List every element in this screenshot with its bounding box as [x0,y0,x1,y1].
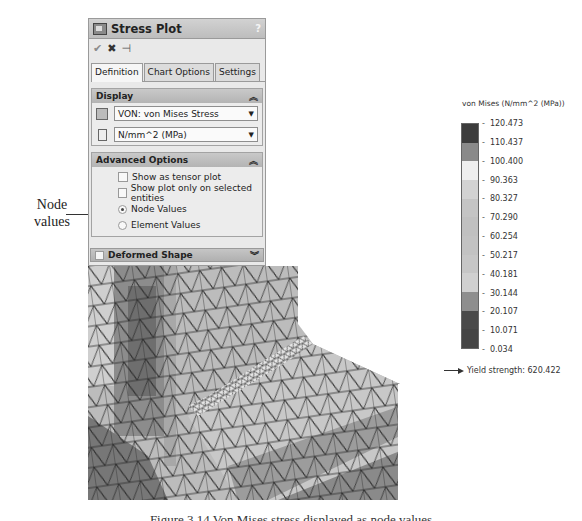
stress-component-icon [96,108,108,120]
color-band [462,255,478,274]
tick-label: 20.107 [482,307,518,316]
stress-plot-panel: Stress Plot ? ✔ ✖ ⊣ Definition Chart Opt… [88,18,266,266]
collapse-chevron-icon[interactable]: ︽ [249,154,258,167]
tick-label: 0.034 [482,345,513,354]
panel-titlebar: Stress Plot ? [89,19,265,39]
units-value: N/mm^2 (MPa) [118,130,187,140]
color-band [462,236,478,255]
node-values-annotation: Node values [22,196,82,230]
color-band [462,161,478,180]
arrow-head-icon [458,368,464,374]
advanced-options-header[interactable]: Advanced Options ︽ [92,153,262,167]
component-row: VON: von Mises Stress ▼ [92,103,262,124]
color-band [462,124,478,143]
color-band [462,273,478,292]
yield-strength-indicator: Yield strength: 620.422 [444,366,561,375]
advanced-options-label: Advanced Options [96,155,188,165]
color-band [462,329,478,348]
tick-label: 10.071 [482,326,518,335]
element-values-radio[interactable] [118,221,127,230]
yield-strength-label: Yield strength: 620.422 [467,366,561,375]
tab-settings[interactable]: Settings [215,63,260,81]
advanced-options-group: Advanced Options ︽ Show as tensor plot S… [91,152,263,237]
action-bar: ✔ ✖ ⊣ [89,39,265,59]
color-band [462,143,478,162]
cancel-x-icon[interactable]: ✖ [107,42,116,56]
show-tensor-label: Show as tensor plot [132,172,221,182]
expand-chevron-icon[interactable]: ︾ [250,249,259,262]
node-values-radio[interactable] [118,205,127,214]
collapse-chevron-icon[interactable]: ︽ [249,90,258,103]
legend-title: von Mises (N/mm^2 (MPa)) [462,99,565,108]
deformed-shape-checkbox[interactable] [95,251,104,260]
fea-mesh-stress-plot[interactable] [88,266,400,500]
tick-label: 60.254 [482,232,518,241]
tab-chart-options[interactable]: Chart Options [144,63,214,81]
dropdown-arrow-icon: ▼ [249,110,254,118]
show-tensor-checkbox[interactable] [118,172,128,182]
ok-check-icon[interactable]: ✔ [93,42,102,56]
element-values-radio-row[interactable]: Element Values [92,217,262,233]
tick-label: 100.400 [482,157,523,166]
annotation-leader-line [66,214,88,215]
tick-label: 30.144 [482,289,518,298]
tick-label: 120.473 [482,119,523,128]
color-band [462,180,478,199]
color-band [462,311,478,330]
deformed-shape-label: Deformed Shape [108,250,250,260]
tab-definition[interactable]: Definition [91,63,143,82]
stress-plot-icon [93,23,107,35]
stress-component-value: VON: von Mises Stress [118,109,219,119]
display-header-label: Display [96,91,133,101]
figure-caption: Figure 3.14 Von Mises stress displayed a… [0,512,582,521]
show-selected-checkbox-row[interactable]: Show plot only on selected entities [92,185,262,201]
show-selected-checkbox[interactable] [118,188,127,198]
dropdown-arrow-icon: ▼ [249,131,254,139]
units-icon [98,129,107,141]
deformed-shape-group-header[interactable]: Deformed Shape ︾ [90,248,264,262]
color-band [462,199,478,218]
help-icon[interactable]: ? [255,23,261,34]
panel-tabs: Definition Chart Options Settings [91,63,265,82]
tick-label: 40.181 [482,270,518,279]
pushpin-icon[interactable]: ⊣ [121,42,131,56]
stress-component-dropdown[interactable]: VON: von Mises Stress ▼ [114,106,258,121]
node-values-radio-row[interactable]: Node Values [92,201,262,217]
element-values-label: Element Values [131,220,201,230]
panel-title: Stress Plot [111,22,255,36]
color-band [462,292,478,311]
tick-label: 70.290 [482,213,518,222]
color-band [462,217,478,236]
tick-label: 80.327 [482,194,518,203]
tick-label: 110.437 [482,138,523,147]
show-selected-label: Show plot only on selected entities [131,183,262,203]
display-group: Display ︽ VON: von Mises Stress ▼ N/mm^2… [91,88,263,146]
color-bar [461,123,479,349]
node-values-label: Node Values [131,204,187,214]
display-group-header[interactable]: Display ︽ [92,89,262,103]
arrow-line [444,370,458,371]
units-row: N/mm^2 (MPa) ▼ [92,124,262,145]
tick-label: 50.217 [482,251,518,260]
units-dropdown[interactable]: N/mm^2 (MPa) ▼ [114,127,258,142]
tick-label: 90.363 [482,176,518,185]
legend-ticks: 120.473 110.437 100.400 90.363 80.327 70… [482,119,582,359]
